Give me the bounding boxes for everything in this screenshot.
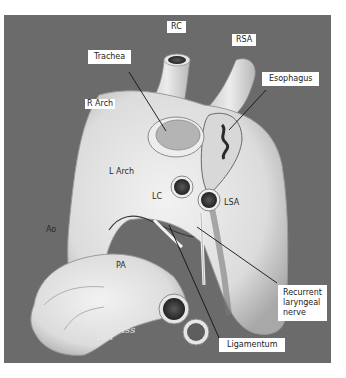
anatomical-illustration: RC RSA Trachea Esophagus Recurrent laryn…: [4, 15, 331, 363]
label-trachea: Trachea: [88, 50, 131, 64]
label-ligamentum: Ligamentum: [219, 338, 285, 352]
label-ao: Ao: [46, 225, 56, 235]
label-esophagus: Esophagus: [262, 72, 319, 86]
label-lsa: LSA: [224, 198, 239, 208]
right-carotid-lumen: [168, 56, 186, 64]
label-recurrent-laryngeal-nerve: Recurrent laryngeal nerve: [278, 285, 327, 321]
label-rc: RC: [167, 21, 186, 33]
lower-ring-2-lumen: [187, 323, 205, 341]
artist-signature: R.Idriss 2001: [96, 325, 135, 343]
label-pa: PA: [116, 261, 126, 271]
artist-year: 2001: [96, 334, 135, 343]
left-subclavian-lumen: [201, 192, 217, 208]
label-r-arch: R Arch: [85, 99, 115, 109]
label-lc: LC: [152, 192, 162, 202]
label-l-arch: L Arch: [109, 167, 134, 177]
label-rsa: RSA: [232, 34, 256, 46]
left-carotid-lumen: [174, 179, 190, 195]
trachea-lumen: [156, 120, 200, 150]
